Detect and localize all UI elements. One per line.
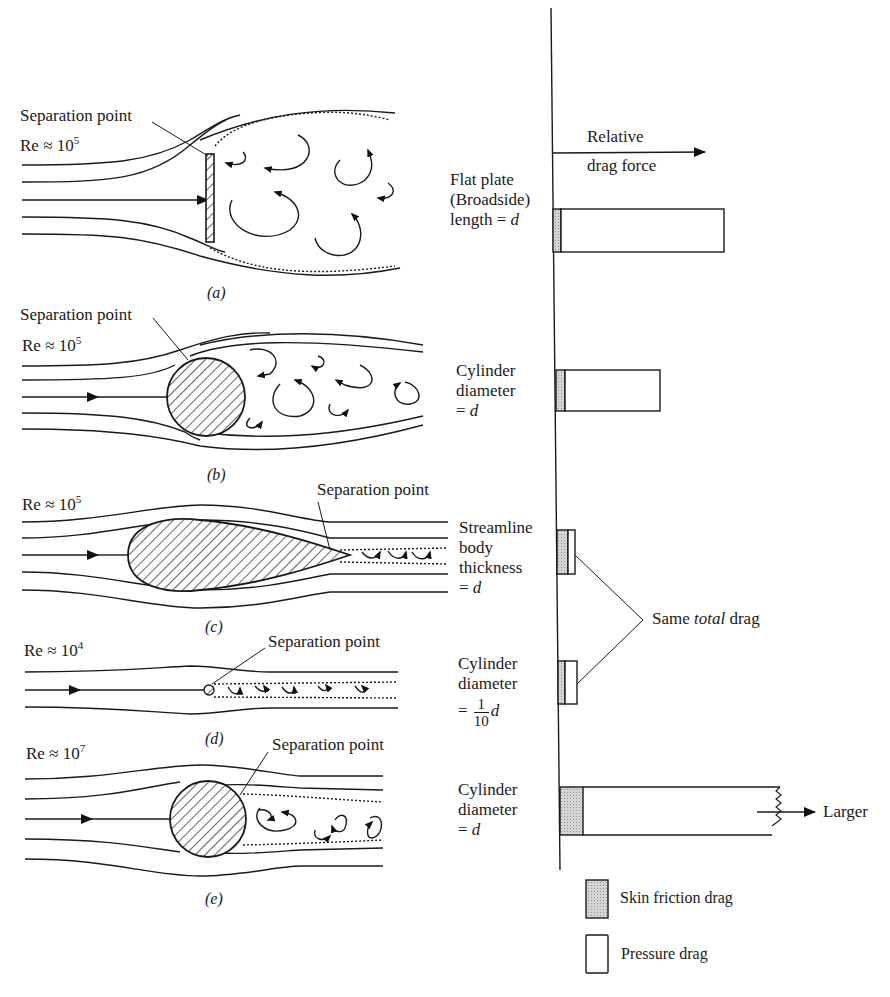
drag-diagram-drawing <box>0 0 890 997</box>
re-text: Re ≈ 10 <box>22 336 76 355</box>
panel-d-caption: (d) <box>205 730 224 748</box>
re-exponent: 5 <box>76 334 82 346</box>
label-var: d <box>472 820 481 839</box>
label-line: thickness <box>459 558 533 578</box>
re-exponent: 7 <box>80 742 86 754</box>
bar-cylinder-e-friction <box>560 787 583 835</box>
label-line: body <box>459 538 533 558</box>
panel-c-re-label: Re ≈ 105 <box>22 495 81 515</box>
axis-label-line1: Relative <box>587 127 644 147</box>
panel-a-re-label: Re ≈ 105 <box>20 136 79 156</box>
panel-b-caption: (b) <box>207 466 226 484</box>
label-var: d <box>473 578 482 597</box>
panel-b-separation-label: Separation point <box>20 305 132 325</box>
label-line: diameter <box>456 381 516 401</box>
legend-pressure-label: Pressure drag <box>621 944 708 964</box>
bar-small-cylinder-friction <box>558 661 565 704</box>
panel-a-separation-label: Separation point <box>20 106 132 126</box>
label-line: = d <box>458 820 518 840</box>
bar-cylinder-e-pressure <box>583 787 780 835</box>
label-line: = d <box>456 401 516 421</box>
legend-skin-friction-label: Skin friction drag <box>620 888 733 908</box>
panel-e-cylinder <box>25 752 383 876</box>
text-emphasis: total <box>694 609 725 628</box>
bar-cylinder-b-pressure <box>565 370 660 411</box>
panel-c-streamline-body <box>22 502 448 608</box>
re-text: Re ≈ 10 <box>20 136 74 155</box>
panel-d-separation-label: Separation point <box>268 632 380 652</box>
label-line: Cylinder <box>458 654 518 674</box>
bar-label-streamline: Streamline body thickness = d <box>459 518 533 598</box>
relative-drag-arrow <box>553 152 705 153</box>
panel-c-caption: (c) <box>205 618 223 636</box>
panel-c-separation-label: Separation point <box>317 480 429 500</box>
label-line: diameter <box>458 800 518 820</box>
label-var: d <box>491 701 500 720</box>
legend-skin-friction-swatch <box>586 880 608 918</box>
label-line: (Broadside) <box>450 190 530 210</box>
re-exponent: 5 <box>76 493 82 505</box>
label-line: Cylinder <box>456 361 516 381</box>
fraction: 110 <box>474 696 489 729</box>
label-text: = <box>458 820 472 839</box>
re-text: Re ≈ 10 <box>22 495 76 514</box>
bar-flat-plate-pressure <box>561 209 724 252</box>
chart-axis-vertical <box>551 8 560 870</box>
label-line: = 110d <box>458 696 518 729</box>
panel-b-re-label: Re ≈ 105 <box>22 336 81 356</box>
legend-pressure-swatch <box>586 935 608 973</box>
label-var: d <box>470 401 479 420</box>
label-line: Flat plate <box>450 170 530 190</box>
fraction-denominator: 10 <box>474 713 489 729</box>
bar-label-cylinder-b: Cylinder diameter = d <box>456 361 516 421</box>
label-line: length = d <box>450 210 530 230</box>
bar-streamline-friction <box>557 530 568 574</box>
bar-flat-plate-friction <box>553 209 561 252</box>
bar-label-small-cylinder: Cylinder diameter = 110d <box>458 654 518 729</box>
label-line: = d <box>459 578 533 598</box>
panel-e-separation-label: Separation point <box>272 735 384 755</box>
label-text: = <box>456 401 470 420</box>
bar-label-cylinder-e: Cylinder diameter = d <box>458 780 518 840</box>
text: Same <box>652 609 694 628</box>
panel-b-cylinder <box>22 318 423 450</box>
bar-small-cylinder-pressure <box>565 661 577 704</box>
label-var: d <box>511 210 520 229</box>
axis-label-line2: drag force <box>587 156 656 176</box>
label-line: Streamline <box>459 518 533 538</box>
label-text: = <box>458 701 472 720</box>
panel-a-caption: (a) <box>207 284 226 302</box>
break-zigzag-icon <box>772 787 781 826</box>
re-exponent: 4 <box>78 639 84 651</box>
bar-label-flat-plate: Flat plate (Broadside) length = d <box>450 170 530 230</box>
bar-streamline-pressure <box>568 530 575 574</box>
same-total-connector <box>575 555 643 684</box>
text: drag <box>725 609 759 628</box>
panel-e-caption: (e) <box>205 890 223 908</box>
label-text: length = <box>450 210 511 229</box>
label-line: Cylinder <box>458 780 518 800</box>
same-total-drag-label: Same total drag <box>652 609 760 629</box>
panel-d-re-label: Re ≈ 104 <box>24 641 83 661</box>
re-text: Re ≈ 10 <box>26 744 80 763</box>
label-text: = <box>459 578 473 597</box>
label-line: diameter <box>458 674 518 694</box>
panel-e-re-label: Re ≈ 107 <box>26 744 85 764</box>
larger-label: Larger <box>823 802 868 822</box>
drag-bar-chart <box>551 8 815 973</box>
re-exponent: 5 <box>74 134 80 146</box>
re-text: Re ≈ 10 <box>24 641 78 660</box>
bar-cylinder-b-friction <box>556 370 565 411</box>
fraction-numerator: 1 <box>474 696 489 713</box>
